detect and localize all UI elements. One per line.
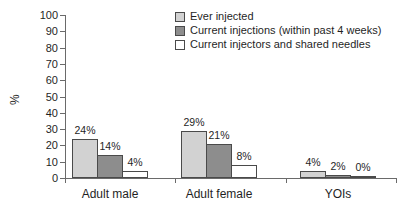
y-tick-label: 20 — [28, 140, 58, 151]
bar-chart: % 010203040506070809010024%14%4%Adult ma… — [0, 0, 403, 209]
y-axis-tick — [60, 145, 65, 146]
legend-swatch — [175, 40, 185, 50]
y-axis-tick — [60, 48, 65, 49]
bar — [325, 175, 351, 178]
y-tick-label: 60 — [28, 75, 58, 86]
category-label: Adult male — [55, 187, 165, 201]
y-tick-label: 0 — [28, 173, 58, 184]
legend-label: Ever injected — [190, 11, 254, 22]
legend-item: Current injections (within past 4 weeks) — [175, 25, 381, 36]
y-axis-line — [65, 15, 66, 178]
bar-value-label: 29% — [174, 116, 214, 128]
x-axis-tick — [286, 179, 287, 183]
y-axis-tick — [60, 80, 65, 81]
y-tick-label: 50 — [28, 92, 58, 103]
bar — [350, 176, 376, 178]
bar — [231, 165, 257, 178]
legend: Ever injectedCurrent injections (within … — [175, 11, 381, 50]
y-axis-tick — [60, 113, 65, 114]
y-axis-title: % — [8, 91, 22, 105]
y-tick-label: 10 — [28, 157, 58, 168]
bar-value-label: 8% — [224, 150, 264, 162]
y-tick-label: 100 — [28, 10, 58, 21]
y-axis-tick — [60, 31, 65, 32]
x-axis-tick — [65, 179, 66, 183]
x-axis-tick — [396, 179, 397, 183]
y-axis-tick — [60, 162, 65, 163]
legend-swatch — [175, 26, 185, 36]
bar — [300, 171, 326, 178]
y-tick-label: 90 — [28, 26, 58, 37]
category-label: YOIs — [283, 187, 393, 201]
y-tick-label: 80 — [28, 43, 58, 54]
legend-label: Current injectors and shared needles — [190, 39, 370, 50]
bar — [122, 171, 148, 178]
x-axis-line — [65, 178, 397, 179]
y-axis-tick — [60, 97, 65, 98]
legend-swatch — [175, 12, 185, 22]
bar-value-label: 24% — [65, 124, 105, 136]
bar-value-label: 0% — [343, 161, 383, 173]
y-tick-label: 40 — [28, 108, 58, 119]
y-axis-tick — [60, 15, 65, 16]
bar-value-label: 21% — [199, 129, 239, 141]
x-axis-tick — [175, 179, 176, 183]
legend-item: Current injectors and shared needles — [175, 39, 381, 50]
bar-value-label: 4% — [115, 156, 155, 168]
y-axis-tick — [60, 64, 65, 65]
legend-item: Ever injected — [175, 11, 381, 22]
y-tick-label: 30 — [28, 124, 58, 135]
bar-value-label: 14% — [90, 140, 130, 152]
category-label: Adult female — [164, 187, 274, 201]
legend-label: Current injections (within past 4 weeks) — [190, 25, 381, 36]
y-tick-label: 70 — [28, 59, 58, 70]
